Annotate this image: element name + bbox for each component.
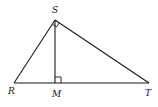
- label-S: S: [52, 5, 58, 15]
- label-R: R: [7, 86, 15, 96]
- triangle-figure: S R M T: [0, 0, 158, 107]
- right-angle-mark-M: [55, 77, 61, 83]
- label-M: M: [51, 89, 62, 99]
- segment-RS: [14, 20, 55, 83]
- segment-ST: [55, 20, 149, 83]
- label-T: T: [145, 88, 152, 98]
- geometry-diagram: S R M T: [0, 0, 158, 107]
